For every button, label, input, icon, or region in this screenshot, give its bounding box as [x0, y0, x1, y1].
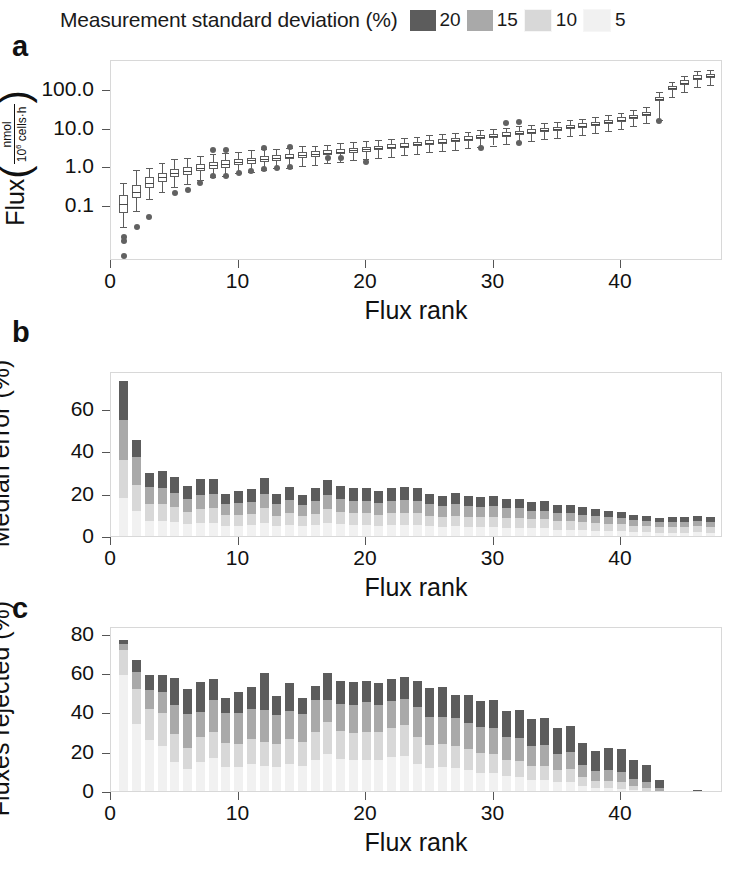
- whisker-upper: [213, 154, 214, 162]
- bar-segment-sd-5: [591, 788, 600, 791]
- whisker-cap-upper: [439, 134, 446, 135]
- outlier-point: [146, 214, 152, 220]
- legend-title: Measurement standard deviation (%): [60, 8, 398, 32]
- boxplot: [604, 61, 613, 259]
- bar-segment-sd-5: [132, 724, 141, 791]
- x-tick-label: 40: [590, 269, 650, 293]
- x-tick-mark: [620, 792, 621, 800]
- bar-group: [311, 628, 320, 791]
- bar-segment-sd-5: [642, 532, 651, 536]
- boxplot: [693, 61, 702, 259]
- y-tick-label: 0.1: [14, 193, 94, 217]
- median-line: [336, 152, 345, 153]
- bar-group: [591, 628, 600, 791]
- outlier-point: [656, 118, 662, 124]
- boxplot: [400, 61, 409, 259]
- boxplot: [132, 61, 141, 259]
- whisker-cap-lower: [312, 165, 319, 166]
- bar-segment-sd-5: [413, 764, 422, 791]
- bar-segment-sd-5: [234, 526, 243, 536]
- bar-group: [425, 373, 434, 536]
- whisker-cap-upper: [273, 149, 280, 150]
- y-tick-label: 10.0: [14, 116, 94, 140]
- bar-segment-sd-5: [502, 776, 511, 791]
- y-tick-label: 20: [14, 482, 94, 506]
- whisker-cap-lower: [643, 123, 650, 124]
- x-tick-mark: [238, 537, 239, 545]
- y-tick-mark: [102, 753, 110, 754]
- bar-segment-sd-5: [183, 769, 192, 791]
- bar-segment-sd-5: [119, 675, 128, 791]
- whisker-cap-lower: [337, 162, 344, 163]
- whisker-cap-upper: [694, 71, 701, 72]
- x-tick-mark: [493, 260, 494, 268]
- bar-group: [489, 373, 498, 536]
- whisker-cap-lower: [579, 135, 586, 136]
- legend-label-10: 10: [556, 9, 577, 31]
- median-line: [170, 173, 179, 174]
- bar-segment-sd-5: [387, 525, 396, 536]
- whisker-cap-upper: [452, 133, 459, 134]
- boxplot: [196, 61, 205, 259]
- whisker-cap-lower: [528, 141, 535, 142]
- bar-segment-sd-5: [451, 526, 460, 536]
- bar-segment-sd-5: [374, 526, 383, 536]
- outlier-point: [261, 166, 267, 172]
- panel-c-y-axis-label: Fluxes rejected (%): [0, 568, 15, 848]
- x-tick-label: 40: [590, 546, 650, 570]
- median-line: [234, 162, 243, 163]
- bar-segment-sd-5: [655, 533, 664, 536]
- whisker-cap-lower: [465, 148, 472, 149]
- whisker-lower: [544, 132, 545, 139]
- whisker-cap-upper: [528, 125, 535, 126]
- bar-group: [158, 628, 167, 791]
- outlier-point: [274, 165, 280, 171]
- bar-segment-sd-5: [604, 788, 613, 791]
- median-line: [119, 204, 128, 205]
- bar-segment-sd-5: [209, 758, 218, 791]
- bar-segment-sd-5: [438, 767, 447, 791]
- bar-group: [311, 373, 320, 536]
- median-line: [183, 171, 192, 172]
- x-tick-mark: [365, 537, 366, 545]
- boxplot: [578, 61, 587, 259]
- whisker-lower: [404, 148, 405, 155]
- bar-group: [298, 373, 307, 536]
- bar-group: [413, 628, 422, 791]
- bar-group: [476, 628, 485, 791]
- bar-segment-sd-5: [272, 767, 281, 791]
- bar-group: [553, 628, 562, 791]
- x-tick-mark: [493, 792, 494, 800]
- bar-segment-sd-5: [515, 528, 524, 536]
- outlier-point: [121, 253, 127, 259]
- bar-segment-sd-5: [553, 530, 562, 536]
- bar-group: [655, 373, 664, 536]
- median-line: [413, 144, 422, 145]
- outlier-point: [261, 145, 267, 151]
- whisker-cap-upper: [401, 138, 408, 139]
- outlier-point: [236, 170, 242, 176]
- bar-group: [413, 373, 422, 536]
- bar-segment-sd-5: [425, 768, 434, 791]
- bar-group: [387, 373, 396, 536]
- outlier-point: [478, 145, 484, 151]
- x-tick-mark: [620, 537, 621, 545]
- bar-segment-sd-5: [362, 525, 371, 536]
- bar-segment-sd-5: [349, 760, 358, 791]
- boxplot: [362, 61, 371, 259]
- legend-entry-10: 10: [524, 9, 583, 32]
- bar-group: [132, 628, 141, 791]
- whisker-cap-upper: [605, 115, 612, 116]
- whisker-upper: [149, 168, 150, 178]
- whisker-cap-upper: [324, 145, 331, 146]
- bar-group: [425, 628, 434, 791]
- whisker-cap-lower: [554, 138, 561, 139]
- y-tick-label: 60: [14, 397, 94, 421]
- bar-segment-sd-5: [476, 527, 485, 536]
- median-line: [323, 153, 332, 154]
- bar-group: [604, 628, 613, 791]
- whisker-lower: [633, 119, 634, 126]
- median-line: [285, 157, 294, 158]
- boxplot: [566, 61, 575, 259]
- bar-segment-sd-5: [119, 498, 128, 536]
